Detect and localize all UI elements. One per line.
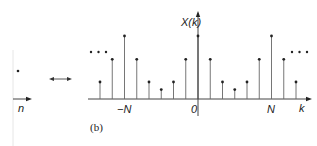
y-axis-label: X(k) bbox=[180, 16, 202, 28]
dft-periodic-spectrum-figure: n X(k) k −N 0 N (b) bbox=[0, 0, 317, 146]
stem-dot bbox=[197, 35, 200, 38]
x-axis-label: k bbox=[299, 102, 305, 114]
stem-series bbox=[99, 35, 298, 99]
left-ellipsis bbox=[90, 51, 107, 53]
stem-dot bbox=[172, 81, 175, 84]
stem-dot bbox=[123, 35, 126, 38]
stem-dot bbox=[221, 81, 224, 84]
stem-dot bbox=[258, 58, 261, 61]
stem-dot bbox=[295, 81, 298, 84]
tick-label-n: N bbox=[267, 103, 275, 115]
k-axis bbox=[88, 97, 312, 101]
stem-dot bbox=[111, 58, 114, 61]
stem-dot bbox=[184, 58, 187, 61]
stem-dot bbox=[246, 81, 249, 84]
stem-dot bbox=[99, 81, 102, 84]
figure-caption: (b) bbox=[90, 121, 103, 134]
stem-dot bbox=[270, 35, 273, 38]
stem-dot bbox=[209, 58, 212, 61]
stem-dot bbox=[233, 88, 236, 91]
stem-dot bbox=[282, 58, 285, 61]
right-ellipsis bbox=[291, 51, 308, 53]
left-sample-dot bbox=[17, 70, 20, 73]
stem-dot bbox=[135, 58, 138, 61]
tick-label-minus-n: −N bbox=[117, 103, 131, 115]
tick-label-zero: 0 bbox=[191, 103, 198, 115]
stem-dot bbox=[148, 81, 151, 84]
transform-pair-arrow-icon bbox=[49, 77, 72, 81]
left-n-axis bbox=[13, 97, 32, 101]
stem-dot bbox=[160, 88, 163, 91]
left-axis-label-n: n bbox=[18, 102, 24, 114]
